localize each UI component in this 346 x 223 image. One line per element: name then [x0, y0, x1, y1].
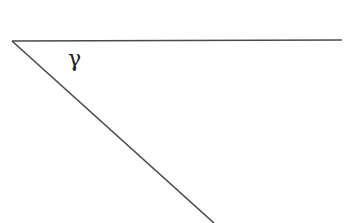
diagonal-ray [12, 41, 214, 223]
angle-label-gamma: γ [68, 48, 81, 70]
horizontal-ray [12, 40, 342, 41]
angle-diagram [0, 0, 346, 223]
